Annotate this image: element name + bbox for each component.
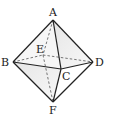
vertex-label-a: A [48,6,58,19]
vertex-label-c: C [62,70,70,83]
octahedron-diagram: A B C D E F [0,0,114,124]
vertex-label-d: D [95,56,104,69]
vertex-label-b: B [1,56,9,69]
vertex-label-e: E [36,43,44,56]
vertex-label-f: F [49,104,57,117]
